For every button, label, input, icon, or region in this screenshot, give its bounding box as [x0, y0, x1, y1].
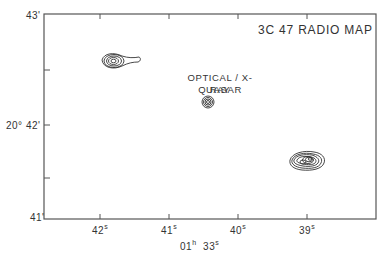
- southern-lobe-contours: [290, 151, 325, 170]
- x-tick-unit: s: [173, 223, 177, 230]
- plot-frame: [44, 14, 376, 219]
- x-tick-40-value: 40: [230, 225, 242, 236]
- x-tick-42-value: 42: [92, 225, 104, 236]
- quasar-core-contours: [202, 96, 214, 108]
- y-tick-43: 43': [26, 10, 41, 21]
- x-tick-unit: s: [242, 223, 246, 230]
- chart-title: 3C 47 RADIO MAP: [258, 23, 373, 37]
- x-tick-41s: 41s: [161, 224, 177, 236]
- x-tick-39s: 39s: [299, 224, 315, 236]
- x-ticks: [100, 14, 307, 219]
- x-tick-40s: 40s: [230, 224, 246, 236]
- x-tick-42s: 42s: [92, 224, 108, 236]
- x-tick-41-value: 41: [161, 225, 173, 236]
- x-tick-39-value: 39: [299, 225, 311, 236]
- x-axis-seconds-unit: s: [215, 239, 219, 246]
- radio-map-plot: [0, 0, 386, 260]
- x-tick-unit: s: [311, 223, 315, 230]
- northern-lobe-contours: [102, 54, 140, 68]
- x-axis-seconds: 33: [203, 241, 215, 252]
- y-tick-42: 20° 42': [6, 120, 40, 131]
- x-axis-hours-unit: h: [192, 239, 196, 246]
- x-axis-hours: 01: [180, 241, 192, 252]
- y-tick-41: 41': [30, 212, 45, 223]
- y-ticks: [44, 70, 50, 178]
- x-tick-unit: s: [104, 223, 108, 230]
- x-axis-label: 01h 33s: [180, 240, 219, 252]
- annotation-quasar: QUASAR: [180, 84, 260, 96]
